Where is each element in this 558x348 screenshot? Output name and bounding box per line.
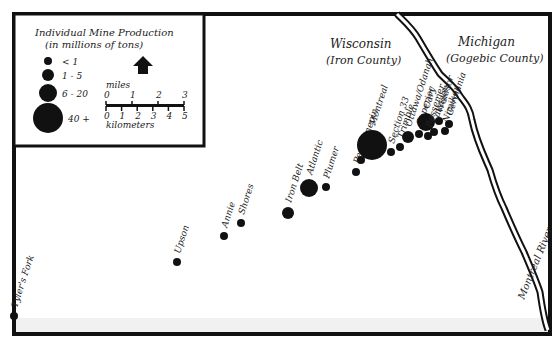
mine-dot xyxy=(282,207,294,219)
mine-dot xyxy=(430,128,438,136)
legend-symbol xyxy=(42,69,54,81)
miles-tick: 2 xyxy=(155,90,162,100)
mine-production-map: Montreal River Wisconsin (Iron County) M… xyxy=(0,0,558,348)
mine-dot xyxy=(402,131,414,143)
legend-class-label: 1 - 5 xyxy=(62,71,82,81)
scale-km-label: kilometers xyxy=(106,120,155,130)
mine-dot xyxy=(322,183,330,191)
legend-symbol xyxy=(33,103,63,133)
km-tick: 4 xyxy=(165,111,172,121)
mine-dot xyxy=(10,312,18,320)
legend-symbol xyxy=(39,84,57,102)
michigan-label: Michigan xyxy=(457,35,515,49)
legend-class-label: 40 + xyxy=(67,114,90,124)
mine-dot xyxy=(173,258,181,266)
legend-class-label: 6 - 20 xyxy=(62,89,88,99)
mine-dot xyxy=(441,127,449,135)
stipple-band xyxy=(16,318,548,332)
miles-tick: 0 xyxy=(104,90,110,100)
mine-dot xyxy=(357,130,387,160)
mine-dot xyxy=(237,219,245,227)
legend-class-label: < 1 xyxy=(62,57,78,67)
mine-dot xyxy=(220,232,228,240)
mine-dot xyxy=(415,130,423,138)
michigan-county-label: (Gogebic County) xyxy=(446,52,544,65)
wisconsin-county-label: (Iron County) xyxy=(326,54,401,67)
km-tick: 5 xyxy=(182,111,188,121)
wisconsin-label: Wisconsin xyxy=(330,37,392,51)
mine-dot xyxy=(387,148,395,156)
scale-miles-label: miles xyxy=(106,80,131,90)
legend: Individual Mine Production (in millions … xyxy=(14,14,204,146)
mine-dot xyxy=(300,179,318,197)
legend-title: Individual Mine Production xyxy=(34,27,174,38)
miles-tick: 1 xyxy=(130,90,136,100)
scale-bar xyxy=(106,104,184,107)
mine-dot xyxy=(396,143,404,151)
mine-dot xyxy=(445,120,453,128)
mine-dot xyxy=(352,168,360,176)
miles-tick: 3 xyxy=(182,90,188,100)
legend-subtitle: (in millions of tons) xyxy=(45,39,143,50)
legend-symbol xyxy=(44,57,52,65)
